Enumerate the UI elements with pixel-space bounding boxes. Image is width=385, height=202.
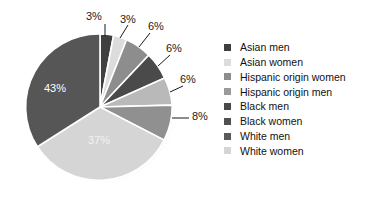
pie-value-white-men: 43% <box>44 82 66 94</box>
legend-swatch-icon <box>224 118 231 125</box>
legend-label: Hispanic origin men <box>240 87 332 98</box>
pie-plot-area: 3% 3% 6% 6% 6% 8% 43% 37% <box>0 0 215 202</box>
chart-legend: Asian men Asian women Hispanic origin wo… <box>222 40 382 158</box>
legend-swatch-icon <box>224 103 231 110</box>
leader-line-3b <box>120 25 128 38</box>
pie-callout-hispanic-origin-women: 6% <box>148 20 164 32</box>
legend-swatch-icon <box>224 44 231 51</box>
legend-label: Asian women <box>240 57 303 68</box>
legend-item-white-women[interactable]: White women <box>222 144 382 159</box>
legend-label: Asian men <box>240 42 290 53</box>
pie-callout-black-women: 8% <box>192 110 208 122</box>
legend-item-hispanic-origin-women[interactable]: Hispanic origin women <box>222 70 382 85</box>
legend-swatch-icon <box>224 73 231 80</box>
legend-swatch-icon <box>224 133 231 140</box>
legend-item-black-men[interactable]: Black men <box>222 99 382 114</box>
legend-item-asian-women[interactable]: Asian women <box>222 55 382 70</box>
pie-svg <box>0 0 215 202</box>
pie-callout-black-men: 6% <box>180 73 196 85</box>
legend-swatch-icon <box>224 59 231 66</box>
legend-label: Black women <box>240 116 302 127</box>
legend-label: Hispanic origin women <box>240 72 346 83</box>
pie-value-white-women: 37% <box>88 134 110 146</box>
legend-item-asian-men[interactable]: Asian men <box>222 40 382 55</box>
legend-item-hispanic-origin-men[interactable]: Hispanic origin men <box>222 84 382 99</box>
leader-line-6a <box>139 33 150 47</box>
pie-callout-asian-women: 3% <box>120 13 136 25</box>
legend-item-black-women[interactable]: Black women <box>222 114 382 129</box>
pie-slices <box>26 34 173 180</box>
legend-swatch-icon <box>224 88 231 95</box>
legend-label: White women <box>240 146 304 157</box>
pie-callout-hispanic-origin-men: 6% <box>166 42 182 54</box>
legend-label: White men <box>240 131 290 142</box>
legend-swatch-icon <box>224 147 231 154</box>
pie-chart-figure: 3% 3% 6% 6% 6% 8% 43% 37% Asian men Asia… <box>0 0 385 202</box>
legend-label: Black men <box>240 101 289 112</box>
pie-callout-asian-men: 3% <box>86 10 102 22</box>
legend-item-white-men[interactable]: White men <box>222 129 382 144</box>
leader-line-6b <box>158 55 170 66</box>
